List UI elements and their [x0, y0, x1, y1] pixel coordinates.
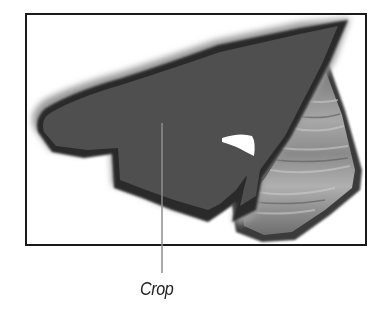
crop-illustration [0, 0, 383, 326]
crop-label: Crop [140, 278, 173, 300]
crop-diagram: Crop [0, 0, 383, 326]
